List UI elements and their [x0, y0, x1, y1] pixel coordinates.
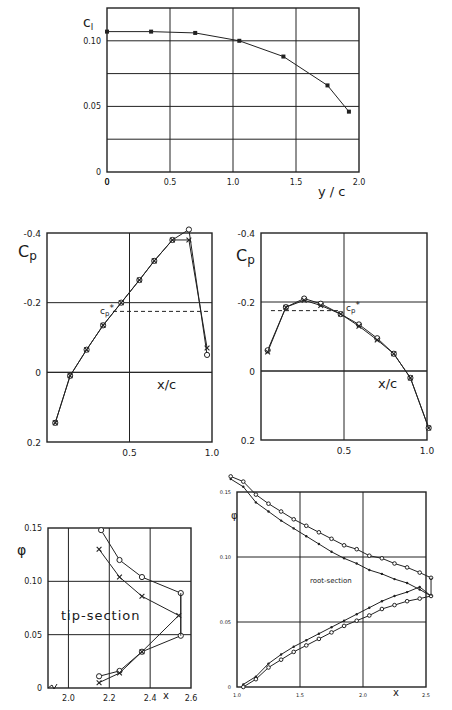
marker-circle [242, 480, 246, 484]
marker-circle [204, 352, 209, 357]
marker-dot [381, 600, 383, 602]
series-line-crosses [268, 300, 429, 428]
x-tick-label: 0.5 [164, 178, 177, 187]
marker-dot [381, 573, 383, 575]
figure-canvas: 00.51.01.52.0000.050.10 0.51.0-0.4-0.200… [0, 0, 452, 710]
marker-circle [305, 644, 309, 648]
marker-dot [343, 557, 345, 559]
x-tick-label: 1.5 [296, 692, 304, 698]
marker-circle [267, 666, 271, 670]
x-tick-label: 2.4 [144, 694, 157, 703]
marker-square [326, 83, 330, 87]
marker-dot [267, 510, 269, 512]
cp-left-x-label: x/c [157, 377, 176, 392]
chart-cl-spanwise: 00.51.01.52.0000.050.10 [83, 8, 365, 187]
marker-dot [305, 535, 307, 537]
marker-circle [355, 619, 359, 623]
marker-square [281, 55, 285, 59]
marker-circle [279, 658, 283, 662]
marker-dot [255, 501, 257, 503]
y-tick-label: 0.2 [27, 438, 41, 448]
marker-dot [242, 486, 244, 488]
marker-circle [342, 544, 346, 548]
y-tick-label: 0 [228, 684, 231, 690]
marker-square [237, 39, 241, 43]
y-tick-label: -0.4 [23, 229, 41, 239]
marker-dot [230, 478, 232, 480]
marker-circle [380, 557, 384, 561]
root-x-label: x [393, 687, 399, 698]
phi-tip-axis-label: φ [17, 542, 26, 558]
marker-circle [229, 475, 233, 479]
marker-circle [393, 603, 397, 607]
marker-dot [368, 569, 370, 571]
marker-circle [355, 547, 359, 551]
marker-circle [342, 624, 346, 628]
marker-dot [293, 527, 295, 529]
marker-square [149, 30, 153, 34]
x-tick-label: 2.6 [185, 694, 198, 703]
marker-circle [139, 574, 144, 579]
marker-circle [418, 571, 422, 575]
marker-dot [280, 653, 282, 655]
marker-circle [380, 607, 384, 611]
marker-cross [97, 680, 102, 685]
marker-circle [317, 637, 321, 641]
marker-square [105, 30, 109, 34]
marker-circle [254, 493, 258, 497]
y-tick-label: -0.2 [23, 298, 41, 308]
x-tick-label: 0 [104, 178, 109, 187]
marker-cross [97, 547, 102, 552]
marker-circle [292, 650, 296, 654]
marker-dot [318, 543, 320, 545]
marker-dot [406, 591, 408, 593]
marker-circle [117, 557, 122, 562]
marker-dot [419, 588, 421, 590]
x-tick-label: 2.2 [103, 694, 116, 703]
y-tick-label: 0 [249, 367, 255, 377]
marker-circle [330, 631, 334, 635]
y-tick-label: 0.15 [24, 524, 42, 533]
x-tick-label: 0.5 [122, 448, 136, 458]
marker-cross [117, 575, 122, 580]
x-tick-label: 1.0 [233, 692, 241, 698]
y-over-c-label: y / c [318, 184, 346, 199]
marker-dot [280, 519, 282, 521]
series-line-c_l [107, 32, 349, 112]
x-tick-label: 2.0 [359, 692, 367, 698]
marker-circle [368, 554, 372, 558]
marker-circle [242, 685, 246, 689]
marker-cross [140, 594, 145, 599]
marker-dot [305, 639, 307, 641]
root-section-label: root-section [310, 577, 352, 585]
y-tick-label: 0.15 [220, 489, 231, 495]
y-tick-label: -0.4 [237, 229, 255, 239]
x-tick-label: 1.5 [290, 178, 303, 187]
marker-circle [305, 524, 309, 528]
y-tick-label: 0 [96, 168, 101, 177]
marker-circle [368, 614, 372, 618]
series-line-crosses [55, 240, 207, 423]
y-tick-label: 0.05 [24, 631, 42, 640]
y-tick-label: 0.2 [241, 436, 255, 446]
series-line-crosses-lower [243, 587, 431, 685]
phi-root-axis-label: φ [231, 510, 238, 521]
tip-x-label: x [163, 690, 169, 701]
marker-circle [405, 566, 409, 570]
marker-dot [356, 562, 358, 564]
y-tick-label: 0.10 [24, 577, 42, 586]
marker-dot [330, 626, 332, 628]
marker-circle [254, 677, 258, 681]
marker-dot [356, 613, 358, 615]
y-tick-label: 0 [37, 684, 42, 693]
x-tick-label: 1.0 [205, 448, 220, 458]
y-tick-label: 0.10 [220, 554, 231, 560]
marker-dot [267, 662, 269, 664]
y-tick-label: 0.05 [220, 619, 231, 625]
marker-dot [318, 633, 320, 635]
series-line-circles-lower [243, 596, 431, 687]
marker-circle [418, 597, 422, 601]
marker-circle [267, 502, 271, 506]
marker-circle [405, 599, 409, 603]
y-tick-label: 0.10 [83, 37, 101, 46]
